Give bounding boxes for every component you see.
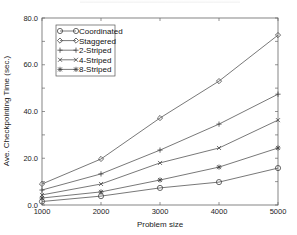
y-tick-label: 60.0 <box>23 60 38 69</box>
x-tick-label: 3000 <box>152 207 169 216</box>
x-tick-label: 5000 <box>270 207 287 216</box>
legend-label: Coordinated <box>79 27 123 36</box>
series-line <box>42 168 278 201</box>
series-8-striped <box>39 145 280 200</box>
y-tick-label: 20.0 <box>23 154 38 163</box>
legend-label: 2-Striped <box>79 46 111 55</box>
x-tick-label: 4000 <box>211 207 228 216</box>
series-line <box>42 94 278 190</box>
y-axis-label: Ave. Checkpointing Time (sec.) <box>2 55 11 166</box>
legend-label: 4-Striped <box>79 56 111 65</box>
y-tick-label: 0.0 <box>28 201 38 210</box>
legend: CoordinatedStaggered2-Striped4-Striped8-… <box>56 25 123 76</box>
series-coordinated <box>39 165 280 204</box>
legend-label: Staggered <box>79 37 116 46</box>
y-tick-label: 40.0 <box>23 107 38 116</box>
x-axis-label: Problem size <box>137 220 184 229</box>
legend-label: 8-Striped <box>79 65 111 74</box>
line-chart: 100020003000400050000.020.040.060.080.0 … <box>0 0 297 235</box>
x-tick-label: 2000 <box>93 207 110 216</box>
y-tick-label: 80.0 <box>23 14 38 23</box>
series-line <box>42 120 278 195</box>
